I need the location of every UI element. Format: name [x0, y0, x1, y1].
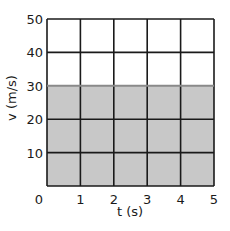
area-under-curve	[47, 86, 214, 186]
y-axis-ticks: 1020304050	[26, 12, 43, 161]
y-tick-label: 40	[26, 45, 43, 60]
y-tick-label: 50	[26, 12, 43, 27]
shaded-area	[47, 86, 214, 186]
x-tick-label: 0	[35, 192, 43, 207]
y-tick-label: 30	[26, 79, 43, 94]
x-tick-label: 1	[76, 192, 84, 207]
velocity-time-chart: 1020304050 012345 t (s) v (m/s)	[0, 0, 230, 231]
x-tick-label: 4	[176, 192, 184, 207]
y-tick-label: 20	[26, 112, 43, 127]
y-axis-label: v (m/s)	[4, 75, 19, 121]
x-tick-label: 5	[210, 192, 218, 207]
x-axis-label: t (s)	[117, 204, 143, 219]
x-tick-label: 3	[143, 192, 151, 207]
y-tick-label: 10	[26, 146, 43, 161]
